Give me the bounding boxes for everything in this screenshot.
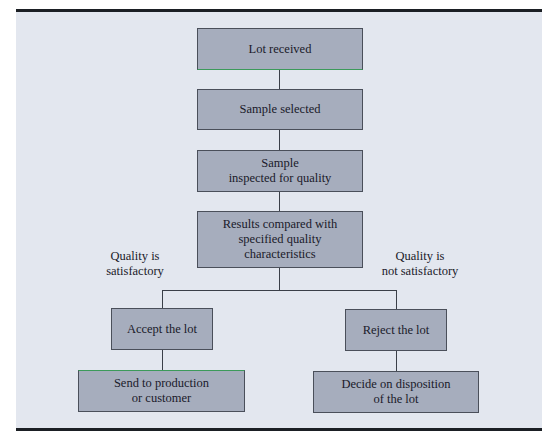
connector-3 [279,192,280,211]
label-quality-satisfactory: Quality is satisfactory [90,249,180,279]
connector-reject [396,290,397,309]
label-quality-not-satisfactory: Quality is not satisfactory [370,249,470,279]
node-lot-received: Lot received [197,28,363,70]
connector-2 [279,130,280,150]
connector-accept [162,290,163,308]
node-send-to-production: Send to production or customer [78,370,245,412]
node-reject-lot: Reject the lot [345,309,447,351]
connector-4 [279,268,280,290]
node-accept-lot: Accept the lot [111,308,213,350]
top-rule [16,9,542,12]
node-sample-inspected: Sample inspected for quality [197,150,363,192]
connector-1 [279,70,280,89]
connector-decide [396,351,397,371]
branch-connector [162,290,397,291]
connector-send [162,350,163,370]
node-sample-selected: Sample selected [197,89,363,130]
node-decide-disposition: Decide on disposition of the lot [313,371,479,413]
node-results-compared: Results compared with specified quality … [197,211,363,268]
bottom-rule [16,428,542,431]
